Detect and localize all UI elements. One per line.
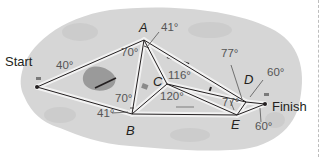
start-label: Start [5,55,32,68]
angle-start: 40° [56,60,73,72]
angle-b-left: 70° [115,93,132,105]
angle-a-left: 70° [121,47,138,59]
vertex-e-label: E [231,118,240,131]
start-point [35,85,39,89]
finish-flag-icon [264,93,269,96]
vertex-a-label: A [139,21,148,34]
angle-b-bottom: 41° [97,108,114,120]
page-edge-divider [318,0,319,157]
vertex-d-label: D [244,73,253,86]
angle-e-top: 77° [222,97,239,109]
angle-c-top: 116° [168,70,191,82]
vertex-c-label: C [153,75,162,88]
start-flag-icon [36,77,41,80]
angle-d-right: 60° [267,67,284,79]
vertex-b-label: B [126,124,135,137]
angle-a-top: 41° [161,22,178,34]
angle-c-bottom: 120° [160,91,184,103]
finish-label: Finish [272,100,307,113]
angle-finish-bottom: 60° [255,121,272,133]
finish-point [263,102,267,106]
angle-d-top: 77° [221,48,238,60]
